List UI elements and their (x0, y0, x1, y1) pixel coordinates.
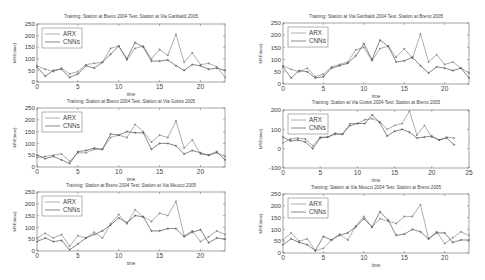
x-axis-label: time (372, 263, 381, 268)
marker-star (93, 231, 95, 233)
x-axis-label: time (127, 177, 136, 182)
marker-star (306, 67, 308, 69)
marker-star (452, 61, 454, 63)
x-tick-label: 10 (360, 85, 368, 92)
legend-label: CNNs (309, 37, 326, 44)
marker-star (167, 137, 169, 139)
marker-star (453, 137, 455, 139)
marker-star (409, 110, 411, 112)
chart-panel: Training: Station at Via Meucci 2004 Tes… (258, 185, 470, 268)
y-tick-label: 0 (278, 80, 282, 87)
marker-star (395, 223, 397, 225)
marker-star (134, 209, 136, 211)
marker-star (379, 218, 381, 220)
marker-star (363, 216, 365, 218)
chart-panel: Training: Station at Breno 2004 Test: St… (12, 14, 226, 97)
marker-star (134, 47, 136, 49)
chart-title: Training: Station at Breno 2004 Test: St… (64, 14, 198, 19)
y-tick-label: -100 (269, 164, 282, 171)
marker-star (151, 141, 153, 143)
y-tick-label: 150 (25, 212, 36, 219)
legend-label: CNNs (309, 124, 326, 131)
marker-star (290, 138, 292, 140)
chart-title: Training: Station at Breno 2004 Test: St… (66, 183, 197, 188)
x-tick-label: 0 (35, 168, 39, 175)
marker-star (208, 236, 210, 238)
y-tick-label: 250 (271, 19, 282, 26)
x-tick-label: 5 (76, 83, 80, 90)
y-tick-label: 100 (271, 126, 282, 133)
x-tick-label: 15 (401, 85, 409, 92)
marker-star (44, 155, 46, 157)
x-tick-label: 20 (197, 252, 205, 259)
marker-star (428, 61, 430, 63)
marker-star (323, 247, 325, 249)
y-tick-label: 250 (271, 190, 282, 197)
y-tick-label: 100 (25, 224, 36, 231)
marker-star (175, 34, 177, 36)
y-axis-label: MSE(time) (12, 127, 17, 147)
y-tick-label: 0 (278, 249, 282, 256)
y-tick-label: 50 (274, 68, 281, 75)
marker-star (290, 68, 292, 70)
y-tick-label: 50 (28, 67, 35, 74)
legend-label: CNNs (63, 122, 80, 129)
marker-star (126, 137, 128, 139)
y-tick-label: 100 (25, 140, 36, 147)
x-tick-label: 10 (354, 169, 362, 176)
x-tick-label: 25 (465, 169, 473, 176)
y-axis-label: MSE(time) (258, 43, 263, 63)
marker-star (468, 234, 470, 236)
marker-star (183, 61, 185, 63)
marker-star (282, 142, 284, 144)
marker-star (61, 234, 63, 236)
marker-star (159, 49, 161, 51)
chart-panel: Training: Station at Breno 2004 Test: St… (12, 99, 226, 182)
legend-label: ARX (309, 116, 323, 123)
marker-star (444, 243, 446, 245)
marker-star (159, 212, 161, 214)
y-tick-label: 200 (271, 106, 282, 113)
legend-label: CNNs (63, 38, 80, 45)
marker-star (175, 120, 177, 122)
x-tick-label: 15 (156, 83, 164, 90)
marker-star (364, 119, 366, 121)
marker-star (420, 204, 422, 206)
chart-title: Training: Station at Via Garibaldi 2004 … (309, 14, 443, 19)
chart-title: Training: Station at Via Goisis 2004 Tes… (312, 100, 441, 105)
x-tick-label: 20 (441, 254, 449, 261)
legend-label: CNNs (63, 206, 80, 213)
chart-panel: Training: Station at Via Goisis 2004 Tes… (258, 100, 473, 183)
y-tick-label: 0 (32, 247, 36, 254)
x-tick-label: 15 (156, 168, 164, 175)
marker-star (403, 48, 405, 50)
marker-star (191, 139, 193, 141)
y-tick-label: 200 (25, 32, 36, 39)
y-tick-label: 50 (274, 237, 281, 244)
y-axis-label: MSE(time) (258, 129, 263, 149)
marker-star (44, 232, 46, 234)
legend: ARXCNNs (288, 198, 328, 218)
marker-star (175, 201, 177, 203)
x-tick-label: 5 (318, 169, 322, 176)
y-tick-label: 250 (25, 104, 36, 111)
marker-star (395, 56, 397, 58)
marker-star (347, 239, 349, 241)
marker-star (386, 128, 388, 130)
marker-star (61, 153, 63, 155)
legend: ARXCNNs (42, 112, 82, 132)
marker-star (444, 64, 446, 66)
x-tick-label: 5 (76, 168, 80, 175)
marker-star (110, 137, 112, 139)
y-tick-label: 200 (25, 116, 36, 123)
y-tick-label: 150 (25, 43, 36, 50)
x-axis-label: time (372, 94, 381, 99)
marker-star (69, 73, 71, 75)
x-tick-label: 0 (281, 169, 285, 176)
y-tick-label: 150 (271, 214, 282, 221)
y-tick-label: 100 (271, 56, 282, 63)
marker-star (282, 239, 284, 241)
legend-label: ARX (63, 114, 77, 121)
marker-star (394, 125, 396, 127)
chart-panel: Training: Station at Breno 2004 Test: St… (12, 183, 226, 266)
